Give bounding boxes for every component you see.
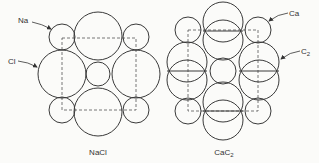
c2-dumbbell: [203, 2, 243, 60]
ca-arrow-icon: [269, 13, 288, 21]
na-ion: [86, 62, 110, 86]
cac2-structure: Ca C2 CaC2: [167, 2, 311, 158]
na-ion: [49, 24, 75, 50]
c2-label: C2: [301, 47, 311, 57]
cl-label: Cl: [8, 57, 16, 66]
ca-ion: [210, 58, 236, 84]
nacl-structure: Na Cl NaCl: [8, 12, 160, 157]
cac2-caption: CaC2: [214, 148, 234, 158]
nacl-caption: NaCl: [89, 148, 107, 157]
ca-label: Ca: [289, 9, 300, 18]
na-arrow-icon: [32, 22, 51, 29]
c2-dumbbell: [203, 82, 243, 140]
cl-ion: [74, 12, 122, 60]
na-label: Na: [18, 16, 29, 25]
nacl-unit-cell: [62, 38, 136, 110]
c2-dumbbell: [239, 42, 279, 100]
c2-arrow-icon: [281, 51, 300, 59]
cl-arrow-icon: [18, 61, 37, 67]
c2-dumbbell: [167, 42, 207, 100]
cl-ion: [74, 88, 122, 136]
crystal-structure-diagram: Na Cl NaCl: [0, 0, 319, 163]
